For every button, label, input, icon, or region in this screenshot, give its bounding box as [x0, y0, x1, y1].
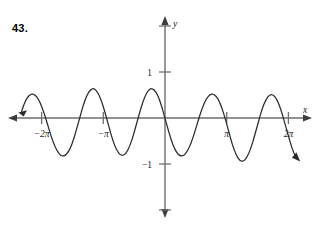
x-axis-right-arrow-icon — [303, 114, 312, 121]
sine-curve-path — [22, 89, 298, 161]
y-axis-label: y — [172, 19, 178, 29]
y-axis-top-arrow-icon — [161, 16, 168, 25]
x-tick-label-2pi: 2π — [284, 129, 294, 139]
x-axis — [8, 114, 312, 121]
x-tick-label-pi: π — [224, 129, 229, 139]
figure-container: 43. — [0, 0, 321, 225]
problem-number: 43. — [12, 22, 28, 34]
x-tick-label-neg2pi: −2π — [34, 129, 50, 139]
x-axis-label: x — [302, 105, 308, 115]
y-tick-label-neg1: −1 — [142, 160, 152, 170]
curve-left-arrow-icon — [18, 110, 27, 116]
x-axis-left-arrow-icon — [8, 114, 17, 121]
x-tick-label-negpi: −π — [98, 129, 109, 139]
graph-svg: y x 1 −1 −2π −π π 2π — [0, 0, 321, 225]
y-tick-label-1: 1 — [147, 68, 152, 78]
sine-curve-group — [18, 89, 300, 162]
curve-right-arrow-icon — [292, 152, 300, 161]
